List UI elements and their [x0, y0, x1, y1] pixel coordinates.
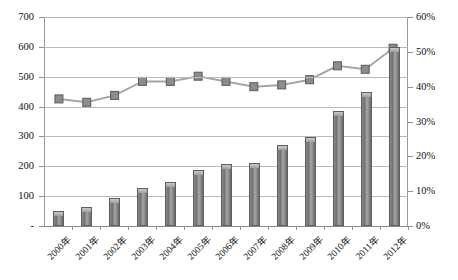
gridline: [44, 47, 408, 48]
line-marker: [166, 77, 174, 85]
bar-highlight: [362, 93, 371, 97]
gridline: [44, 226, 408, 227]
y-axis-left-tick: [39, 196, 44, 197]
gridline: [44, 77, 408, 78]
x-axis-tick: [268, 226, 269, 230]
line-marker: [250, 83, 258, 91]
line-marker: [278, 81, 286, 89]
x-axis-tick: [352, 226, 353, 230]
y-axis-left-tick: [39, 17, 44, 18]
bar-highlight: [390, 48, 399, 52]
y-axis-left-tick-label: -: [0, 221, 34, 231]
y-axis-left-tick: [39, 77, 44, 78]
line-marker: [138, 77, 146, 85]
chart-container: -100200300400500600700 0%10%20%30%40%50%…: [0, 0, 458, 280]
bar: [109, 198, 120, 226]
bar: [389, 47, 400, 226]
y-axis-right-tick-label: 30%: [416, 117, 435, 127]
y-axis-right-tick: [408, 17, 413, 18]
bar: [277, 145, 288, 226]
line-marker: [333, 62, 341, 70]
y-axis-left-tick-label: 500: [0, 72, 34, 82]
y-axis-right-tick-label: 20%: [416, 151, 435, 161]
bar-highlight: [306, 138, 315, 142]
x-axis-tick: [128, 226, 129, 230]
line-marker: [361, 65, 369, 73]
y-axis-left-tick-label: 400: [0, 102, 34, 112]
y-axis-left-tick: [39, 47, 44, 48]
bar: [137, 188, 148, 226]
y-axis-right-tick: [408, 87, 413, 88]
bar-highlight: [82, 208, 91, 212]
y-axis-right-tick: [408, 52, 413, 53]
y-axis-left-tick-label: 600: [0, 42, 34, 52]
bar: [249, 163, 260, 226]
gridline: [44, 107, 408, 108]
x-axis-tick: [100, 226, 101, 230]
y-axis-left-tick: [39, 136, 44, 137]
x-axis-tick: [240, 226, 241, 230]
line-marker: [83, 98, 91, 106]
bar-highlight: [222, 165, 231, 169]
bar-highlight: [250, 164, 259, 168]
line-marker: [55, 95, 63, 103]
x-axis-tick: [184, 226, 185, 230]
line-path: [59, 48, 393, 102]
gridline: [44, 17, 408, 18]
line-marker: [222, 77, 230, 85]
y-axis-left-tick-label: 100: [0, 191, 34, 201]
bar-highlight: [194, 171, 203, 175]
y-axis-left-tick-label: 200: [0, 161, 34, 171]
x-axis-tick: [324, 226, 325, 230]
y-axis-left-tick: [39, 166, 44, 167]
bar: [305, 137, 316, 226]
line-marker: [111, 91, 119, 99]
y-axis-right-tick-label: 40%: [416, 82, 435, 92]
bar-highlight: [110, 199, 119, 203]
y-axis-right-tick: [408, 122, 413, 123]
y-axis-left-tick-label: 300: [0, 131, 34, 141]
bar: [333, 111, 344, 226]
y-axis-right-tick: [408, 156, 413, 157]
y-axis-right-tick-label: 60%: [416, 12, 435, 22]
bar: [221, 164, 232, 226]
x-axis-tick: [296, 226, 297, 230]
y-axis-right-tick-label: 50%: [416, 47, 435, 57]
x-axis-tick: [72, 226, 73, 230]
x-axis-tick: [380, 226, 381, 230]
y-axis-right-tick: [408, 191, 413, 192]
bar-highlight: [54, 212, 63, 216]
y-axis-left-tick: [39, 107, 44, 108]
gridline: [44, 136, 408, 137]
bar: [81, 207, 92, 226]
x-axis-tick: [408, 226, 409, 230]
bar-highlight: [166, 183, 175, 187]
bar: [193, 170, 204, 226]
bar-highlight: [138, 189, 147, 193]
y-axis-right-tick-label: 0%: [416, 221, 430, 231]
bar-highlight: [278, 146, 287, 150]
bar: [361, 92, 372, 226]
bar-highlight: [334, 112, 343, 116]
y-axis-left-tick-label: 700: [0, 12, 34, 22]
x-axis-tick: [156, 226, 157, 230]
y-axis-left-tick: [39, 226, 44, 227]
x-axis-tick: [212, 226, 213, 230]
y-axis-right-tick-label: 10%: [416, 186, 435, 196]
bar: [53, 211, 64, 226]
bar: [165, 182, 176, 226]
